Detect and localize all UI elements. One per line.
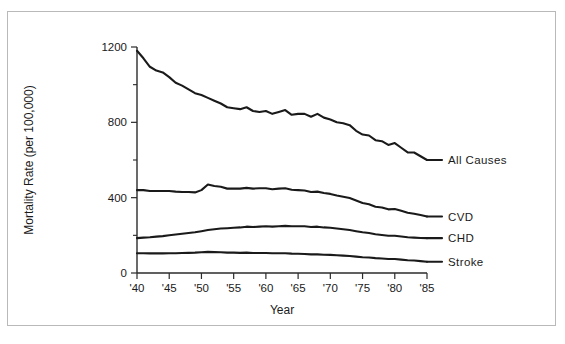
y-tick-marks — [131, 47, 137, 273]
x-tick-label: '70 — [323, 282, 338, 294]
y-tick-label: 0 — [121, 267, 127, 279]
series-label-stroke: Stroke — [448, 256, 484, 268]
x-tick-label: '50 — [194, 282, 209, 294]
series-line-stroke — [137, 252, 427, 262]
series-label-chd: CHD — [448, 232, 474, 244]
mortality-rate-line-chart: 04008001200 Mortality Rate (per 100,000)… — [8, 12, 555, 325]
y-axis-title: Mortality Rate (per 100,000) — [22, 85, 36, 234]
x-tick-marks — [137, 273, 427, 279]
series-line-chd — [137, 226, 427, 238]
x-tick-label: '40 — [130, 282, 145, 294]
series-leader-lines — [427, 160, 442, 262]
x-tick-label: '80 — [387, 282, 402, 294]
series-line-all-causes — [137, 51, 427, 160]
series-line-cvd — [137, 184, 427, 216]
x-tick-label: '75 — [355, 282, 370, 294]
series-label-all-causes: All Causes — [448, 154, 507, 166]
x-tick-label: '85 — [420, 282, 435, 294]
y-tick-label: 1200 — [101, 41, 127, 53]
x-tick-labels: '40'45'50'55'60'65'70'75'80'85 — [130, 282, 435, 294]
y-tick-labels: 04008001200 — [101, 41, 127, 279]
x-tick-label: '60 — [258, 282, 273, 294]
x-axis-title: Year — [270, 303, 294, 317]
series-labels: All CausesCVDCHDStroke — [448, 154, 507, 268]
x-tick-label: '45 — [162, 282, 177, 294]
y-tick-label: 800 — [108, 116, 127, 128]
x-tick-label: '55 — [226, 282, 241, 294]
y-axis: 04008001200 Mortality Rate (per 100,000) — [22, 41, 137, 279]
x-tick-label: '65 — [291, 282, 306, 294]
figure-border: 04008001200 Mortality Rate (per 100,000)… — [7, 11, 556, 326]
series-lines — [137, 51, 427, 262]
series-label-cvd: CVD — [448, 211, 473, 223]
x-axis: '40'45'50'55'60'65'70'75'80'85 Year — [130, 273, 435, 317]
y-tick-label: 400 — [108, 192, 127, 204]
